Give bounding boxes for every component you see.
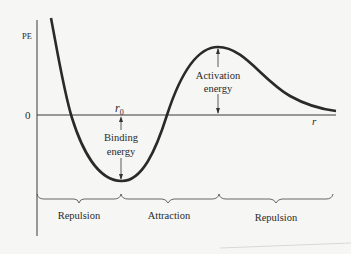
arrowhead-down-icon: [119, 174, 123, 180]
activation-energy-label: Activation: [196, 70, 241, 81]
repulsion-brace: [219, 194, 333, 203]
potential-energy-curve: [51, 18, 336, 181]
region-label-attraction: Attraction: [148, 210, 191, 221]
region-label-repulsion: Repulsion: [58, 210, 101, 221]
region-label-repulsion: Repulsion: [255, 212, 298, 223]
arrowhead-up-icon: [216, 48, 220, 54]
attraction-brace: [121, 194, 219, 203]
zero-label: 0: [25, 109, 31, 121]
y-axis-label: PE: [22, 31, 32, 41]
binding-energy-label: Binding: [104, 132, 139, 143]
potential-energy-diagram: PE 0 r r0 Binding energy Activation ener…: [0, 0, 351, 254]
binding-energy-label: energy: [107, 146, 136, 157]
r0-label: r0: [115, 101, 124, 117]
repulsion-brace: [37, 194, 121, 203]
arrowhead-down-icon: [216, 108, 220, 114]
x-axis-label: r: [312, 115, 317, 127]
activation-energy-label: energy: [204, 83, 233, 94]
